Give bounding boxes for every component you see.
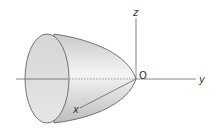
paraboloid-cap [25,34,69,123]
x-label: x [72,104,79,115]
z-label: z [132,7,139,18]
y-label: y [198,74,206,85]
paraboloid-diagram: z y x O [0,0,222,128]
origin-label: O [139,70,147,81]
